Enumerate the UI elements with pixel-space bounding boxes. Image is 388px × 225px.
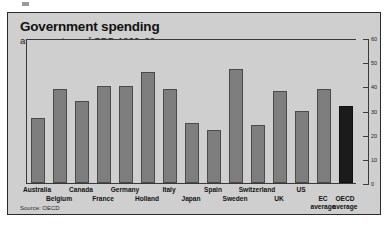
y-tick-label: 0 (371, 181, 374, 187)
bar-ec-average (317, 89, 331, 183)
y-tick-label: 60 (371, 36, 377, 42)
bar-oecd-average (339, 106, 353, 183)
y-tick (363, 160, 369, 161)
y-tick (363, 136, 369, 137)
x-label-line: Australia (23, 186, 51, 194)
x-label-us: US (296, 186, 305, 194)
chart-panel: Government spending as percentage of GDP… (7, 12, 381, 215)
x-label-canada: Canada (69, 186, 93, 194)
x-label-line: Japan (181, 195, 200, 203)
x-label-italy: Italy (162, 186, 175, 194)
y-tick (363, 87, 369, 88)
x-label-line: OECD (333, 195, 358, 203)
y-tick (363, 63, 369, 64)
bar-germany (119, 86, 133, 183)
x-label-line: Sweden (223, 195, 248, 203)
bar-switzerland (251, 125, 265, 183)
x-label-japan: Japan (181, 195, 200, 203)
figure-root: Government spending as percentage of GDP… (0, 0, 388, 225)
x-label-switzerland: Switzerland (239, 186, 276, 194)
x-label-sweden: Sweden (223, 195, 248, 203)
x-label-germany: Germany (111, 186, 140, 194)
bar-series (27, 40, 356, 183)
bar-us (295, 111, 309, 184)
plot-area (26, 39, 356, 184)
bar-canada (75, 101, 89, 183)
x-label-line: average (333, 203, 358, 211)
x-label-france: France (92, 195, 114, 203)
x-label-uk: UK (274, 195, 284, 203)
x-label-line: US (296, 186, 305, 194)
x-label-line: Canada (69, 186, 93, 194)
x-label-line: UK (274, 195, 284, 203)
y-tick-label: 20 (371, 133, 377, 139)
y-tick (363, 39, 369, 40)
bar-sweden (229, 69, 243, 183)
bar-uk (273, 91, 287, 183)
y-tick-label: 50 (371, 60, 377, 66)
bar-belgium (53, 89, 67, 183)
y-tick-label: 30 (371, 109, 377, 115)
x-label-line: Switzerland (239, 186, 276, 194)
y-tick (363, 184, 369, 185)
x-label-line: Holland (135, 195, 159, 203)
x-label-line: Belgium (46, 195, 72, 203)
y-tick-label: 40 (371, 84, 377, 90)
y-axis: 0102030405060 (356, 39, 382, 184)
chart-title: Government spending (20, 19, 159, 34)
x-label-belgium: Belgium (46, 195, 72, 203)
x-label-line: Italy (162, 186, 175, 194)
bar-france (97, 86, 111, 183)
scan-artifact (22, 2, 29, 6)
x-label-line: Germany (111, 186, 140, 194)
y-tick (363, 112, 369, 113)
y-tick-label: 10 (371, 157, 377, 163)
x-label-holland: Holland (135, 195, 159, 203)
source-note: Source: OECD (20, 205, 60, 211)
bar-japan (185, 123, 199, 183)
x-label-spain: Spain (204, 186, 222, 194)
bar-italy (163, 89, 177, 183)
x-axis-labels: AustraliaBelgiumCanadaFranceGermanyHolla… (26, 185, 356, 211)
bar-spain (207, 130, 221, 183)
x-label-australia: Australia (23, 186, 51, 194)
x-label-oecd-average: OECDaverage (333, 195, 358, 210)
bar-australia (31, 118, 45, 183)
bar-holland (141, 72, 155, 183)
x-label-line: France (92, 195, 114, 203)
x-label-line: Spain (204, 186, 222, 194)
